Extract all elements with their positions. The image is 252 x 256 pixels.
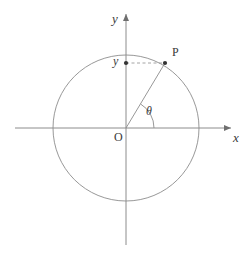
y-axis-arrow-icon	[123, 14, 129, 21]
origin-label: O	[114, 131, 123, 143]
y-coordinate-label: y	[113, 55, 118, 67]
point-p-label: P	[172, 46, 179, 58]
y-axis-label: y	[112, 12, 118, 25]
unit-circle-diagram	[0, 0, 252, 256]
point-p-marker	[163, 61, 167, 65]
point-y-marker	[124, 61, 128, 65]
angle-theta-label: θ	[146, 105, 152, 117]
radius-segment-op	[126, 63, 165, 128]
x-axis-arrow-icon	[224, 125, 231, 131]
unit-circle-figure: y x O θ P y	[0, 0, 252, 256]
x-axis-label: x	[233, 131, 239, 144]
